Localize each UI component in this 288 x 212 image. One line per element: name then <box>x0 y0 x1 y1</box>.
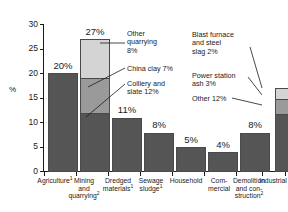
annotation-other-quarrying: Other quarrying 8% <box>127 30 171 55</box>
bar-segment-blast-furnace-slag <box>276 89 288 98</box>
x-category-line2-dredged: materials <box>103 185 131 192</box>
bar-segment-household <box>177 148 205 171</box>
x-category-line1-mining: Mining <box>74 177 94 184</box>
y-tick-label-15: 15 <box>14 93 38 101</box>
bar-value-label-sewage-sludge: 8% <box>137 120 181 130</box>
bar-segment-other-quarrying <box>81 40 109 78</box>
x-tick-mark-7 <box>262 172 263 176</box>
x-tick-mark-6 <box>236 172 237 176</box>
bar-commercial[interactable] <box>208 152 238 172</box>
bar-group-industrial[interactable]: 17% <box>250 24 280 172</box>
annotation-other-industrial: Other 12% <box>192 95 252 103</box>
footnote-marker-demolition: 2 <box>260 190 263 196</box>
y-tick-label-30: 30 <box>14 20 38 28</box>
x-tick-mark-3 <box>140 172 141 176</box>
bar-industrial[interactable] <box>275 88 288 172</box>
bar-value-label-industrial: 17% <box>275 76 288 86</box>
x-tick-mark-0 <box>44 172 45 176</box>
x-tick-mark-8 <box>285 172 286 176</box>
waste-sources-bar-chart: % 30 25 20 15 10 5 0 20% 27% <box>0 0 288 212</box>
x-tick-mark-2 <box>108 172 109 176</box>
bar-segment-commercial <box>209 153 237 171</box>
annotation-blast-furnace-slag: Blast furnace and steel slag 2% <box>192 31 252 56</box>
annotation-power-station-ash: Power station ash 3% <box>192 72 252 89</box>
bar-value-label-commercial: 4% <box>201 140 245 150</box>
y-tick-label-0: 0 <box>14 167 38 175</box>
x-category-line2-commercial: mercial <box>208 185 230 192</box>
x-category-line2-sewage: sludge <box>140 185 160 192</box>
bar-segment-colliery-slate <box>81 113 109 171</box>
bar-agriculture[interactable] <box>48 73 78 172</box>
bar-segment-agriculture <box>49 74 77 171</box>
bar-segment-other-industrial <box>276 114 288 171</box>
bar-value-label-mining: 27% <box>73 27 117 37</box>
x-category-line3-demolition: struction <box>235 192 261 199</box>
bar-group-agriculture[interactable]: 20% <box>48 24 78 172</box>
bar-value-label-dredged-materials: 11% <box>105 105 149 115</box>
y-tick-label-10: 10 <box>14 118 38 126</box>
x-category-line1-industrial: Industrial <box>259 177 287 184</box>
x-category-line3-mining: quarrying <box>68 192 96 199</box>
y-tick-label-5: 5 <box>14 142 38 150</box>
x-category-line2-mining: and <box>78 185 89 192</box>
x-tick-mark-4 <box>172 172 173 176</box>
x-category-line1-commercial: Com- <box>211 177 228 184</box>
x-category-label-industrial: Industrial <box>256 177 288 185</box>
y-tick-label-20: 20 <box>14 69 38 77</box>
x-tick-mark-5 <box>204 172 205 176</box>
x-tick-mark-1 <box>76 172 77 176</box>
bar-group-mining[interactable]: 27% <box>80 24 110 172</box>
annotation-colliery-slate: Colliery and slate 12% <box>127 80 181 97</box>
bar-value-label-agriculture: 20% <box>41 61 85 71</box>
bar-segment-power-station-ash <box>276 99 288 114</box>
bar-household[interactable] <box>176 147 206 172</box>
x-category-line2-demolition: and con- <box>236 185 262 192</box>
x-category-line1-household: Household <box>170 177 203 184</box>
y-tick-label-25: 25 <box>14 44 38 52</box>
x-category-line1-dredged: Dredged <box>105 177 131 184</box>
annotation-china-clay: China clay 7% <box>127 65 191 73</box>
footnote-marker-sewage: 1 <box>160 182 163 188</box>
